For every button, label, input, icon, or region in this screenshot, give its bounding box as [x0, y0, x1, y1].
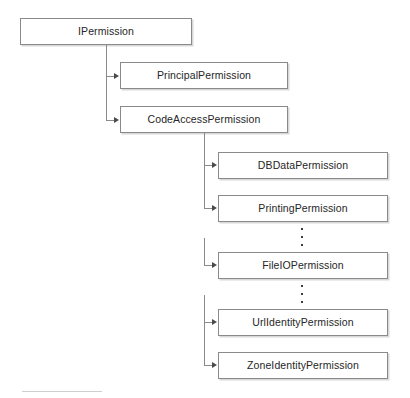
node-label-printingpermission: PrintingPermission: [258, 203, 347, 214]
node-fileiopermission[interactable]: FileIOPermission: [218, 252, 388, 279]
arrowhead-printingpermission: [212, 205, 217, 211]
node-dbdatapermission[interactable]: DBDataPermission: [218, 152, 388, 179]
node-zoneidentitypermission[interactable]: ZoneIdentityPermission: [218, 352, 388, 379]
connector-ipermission-trunk: [106, 45, 107, 121]
node-ipermission[interactable]: IPermission: [20, 18, 192, 45]
footer-divider: [22, 391, 102, 392]
arrowhead-dbdatapermission: [212, 162, 217, 168]
connector-trunk-segment-identitypermissions: [204, 295, 205, 366]
arrowhead-urlidentitypermission: [212, 319, 217, 325]
class-hierarchy-diagram: IPermission PrincipalPermission CodeAcce…: [0, 0, 410, 398]
node-label-codeaccesspermission: CodeAccessPermission: [148, 114, 261, 125]
arrowhead-codeaccesspermission: [114, 117, 119, 123]
node-label-fileiopermission: FileIOPermission: [262, 260, 344, 271]
node-label-dbdatapermission: DBDataPermission: [258, 160, 348, 171]
node-label-principalpermission: PrincipalPermission: [157, 70, 251, 81]
connector-trunk-segment-fileiopermission: [204, 238, 205, 266]
ellipsis-lower-icon: [301, 285, 303, 303]
arrowhead-fileiopermission: [212, 262, 217, 268]
node-principalpermission[interactable]: PrincipalPermission: [120, 62, 288, 89]
node-label-ipermission: IPermission: [78, 26, 134, 37]
arrowhead-principalpermission: [114, 73, 119, 79]
ellipsis-upper-icon: [301, 228, 303, 246]
node-codeaccesspermission[interactable]: CodeAccessPermission: [120, 106, 288, 133]
node-label-urlidentitypermission: UrlIdentityPermission: [252, 317, 353, 328]
arrowhead-zoneidentitypermission: [212, 362, 217, 368]
node-printingpermission[interactable]: PrintingPermission: [218, 195, 388, 222]
node-urlidentitypermission[interactable]: UrlIdentityPermission: [218, 309, 388, 336]
connector-codeaccesspermission-trunk: [204, 133, 205, 209]
node-label-zoneidentitypermission: ZoneIdentityPermission: [247, 360, 359, 371]
